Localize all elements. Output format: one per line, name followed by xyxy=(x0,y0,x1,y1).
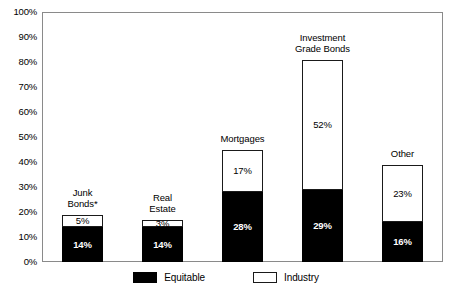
bar-segment-industry: 5% xyxy=(62,215,103,228)
bar-value-label: 5% xyxy=(76,216,90,226)
bar-segment-industry: 52% xyxy=(302,60,343,190)
bar-value-label: 16% xyxy=(393,237,412,247)
bar-group: 14%3% xyxy=(142,220,183,263)
y-axis-tick: 10% xyxy=(19,232,37,242)
bar-value-label: 14% xyxy=(73,240,92,250)
bar-value-label: 52% xyxy=(313,120,332,130)
bar-value-label: 29% xyxy=(313,221,332,231)
bar-group: 14%5% xyxy=(62,215,103,263)
stacked-bar-chart: 0%10%20%30%40%50%60%70%80%90%100% 14%5%J… xyxy=(0,0,452,301)
y-axis-tick: 60% xyxy=(19,107,37,117)
y-axis-tick: 50% xyxy=(19,132,37,142)
category-label: Other xyxy=(360,148,445,160)
bar-value-label: 23% xyxy=(393,189,412,199)
chart-legend: Equitable Industry xyxy=(0,272,452,283)
bar-value-label: 17% xyxy=(233,166,252,176)
legend-label-industry: Industry xyxy=(284,273,319,283)
bars-container: 14%5%Junk Bonds*14%3%Real Estate28%17%Mo… xyxy=(42,12,443,262)
y-axis-tick: 20% xyxy=(19,207,37,217)
category-label: Real Estate xyxy=(120,192,205,215)
bar-segment-equitable: 28% xyxy=(222,192,263,262)
y-axis-tick: 90% xyxy=(19,32,37,42)
bar-segment-equitable: 14% xyxy=(62,227,103,262)
legend-label-equitable: Equitable xyxy=(164,273,205,283)
bar-value-label: 14% xyxy=(153,240,172,250)
y-axis-tick: 30% xyxy=(19,182,37,192)
y-axis-tick: 70% xyxy=(19,82,37,92)
category-label: Mortgages xyxy=(200,133,285,145)
y-axis-tick: 40% xyxy=(19,157,37,167)
y-axis-tick: 100% xyxy=(14,7,38,17)
black-swatch-icon xyxy=(133,272,157,283)
white-swatch-icon xyxy=(253,272,277,283)
y-axis: 0%10%20%30%40%50%60%70%80%90%100% xyxy=(0,0,42,301)
bar-segment-industry: 17% xyxy=(222,150,263,193)
legend-item-equitable: Equitable xyxy=(133,272,205,283)
bar-value-label: 28% xyxy=(233,222,252,232)
bar-group: 16%23% xyxy=(382,165,423,263)
category-label: Junk Bonds* xyxy=(40,187,125,210)
category-label: Investment Grade Bonds xyxy=(280,32,365,55)
bar-group: 28%17% xyxy=(222,150,263,263)
bar-value-label: 3% xyxy=(156,219,170,229)
bar-group: 29%52% xyxy=(302,60,343,263)
bar-segment-industry: 3% xyxy=(142,220,183,228)
legend-item-industry: Industry xyxy=(253,272,319,283)
y-axis-tick: 80% xyxy=(19,57,37,67)
bar-segment-equitable: 29% xyxy=(302,190,343,263)
bar-segment-equitable: 14% xyxy=(142,227,183,262)
bar-segment-equitable: 16% xyxy=(382,222,423,262)
y-axis-tick: 0% xyxy=(24,257,37,267)
bar-segment-industry: 23% xyxy=(382,165,423,223)
